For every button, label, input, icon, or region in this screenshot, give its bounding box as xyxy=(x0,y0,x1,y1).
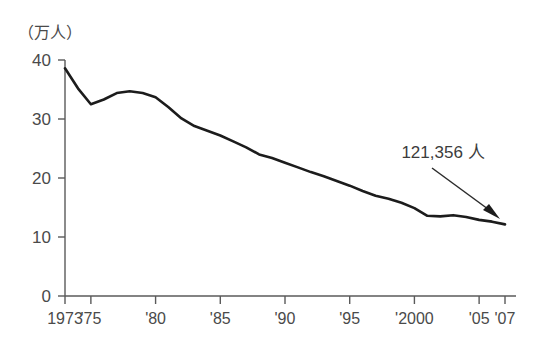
x-tick-label: '85 xyxy=(210,310,231,327)
annotation-arrowhead xyxy=(483,204,500,219)
x-axis-ticks: 1973'75'80'85'90'95'2000'05'07 xyxy=(47,296,515,327)
x-tick-label: '80 xyxy=(145,310,166,327)
annotation-leader-line xyxy=(432,168,492,212)
y-tick-label: 40 xyxy=(32,51,51,70)
y-tick-label: 20 xyxy=(32,169,51,188)
chart-page: （万人） 010203040 1973'75'80'85'90'95'2000'… xyxy=(0,0,535,345)
y-axis-ticks: 010203040 xyxy=(32,51,65,306)
x-tick-label: '75 xyxy=(80,310,101,327)
annotation-arrow xyxy=(432,168,500,219)
x-tick-label: '07 xyxy=(495,310,516,327)
y-tick-label: 30 xyxy=(32,110,51,129)
x-tick-label: '2000 xyxy=(395,310,434,327)
x-tick-label: '05 xyxy=(469,310,490,327)
x-tick-label: 1973 xyxy=(47,310,83,327)
y-tick-label: 10 xyxy=(32,228,51,247)
annotation-value-label: 121,356 人 xyxy=(401,143,484,162)
y-tick-label: 0 xyxy=(42,287,51,306)
x-tick-label: '95 xyxy=(339,310,360,327)
line-chart: （万人） 010203040 1973'75'80'85'90'95'2000'… xyxy=(0,0,535,345)
y-axis-unit-label: （万人） xyxy=(18,24,82,41)
x-tick-label: '90 xyxy=(275,310,296,327)
